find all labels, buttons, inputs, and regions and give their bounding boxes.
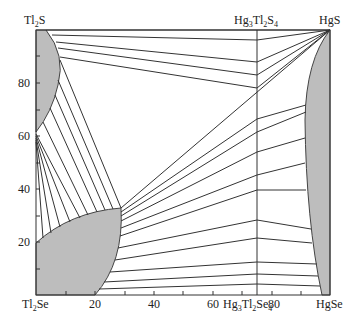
x-tick-60: 60 [207,297,219,311]
tie-lines-lower-fan [99,119,257,289]
y-tick-80: 80 [18,76,30,90]
y-tick-60: 60 [18,129,30,143]
x-tick-40: 40 [148,297,160,311]
label-hgs: HgS [319,13,340,27]
label-hg3tl2s4: Hg3Tl2S4 [234,13,278,29]
x-tick-20: 20 [89,297,101,311]
hgs-hgse-solid-solution-region [305,30,330,295]
label-hg3tl2se4: Hg3Tl2Se4 [223,297,272,313]
label-hgse: HgSe [316,297,343,311]
y-tick-40: 40 [18,182,30,196]
phase-diagram: 80 60 40 20 20 40 60 80 Tl2S HgS Tl2Se H… [0,0,363,325]
label-tl2se: Tl2Se [22,297,49,313]
tie-lines-upper [46,30,330,88]
label-tl2s: Tl2S [24,13,45,29]
y-tick-20: 20 [18,235,30,249]
tl2s-solid-solution-region [36,30,60,132]
diagonal-tie-line [121,30,330,208]
